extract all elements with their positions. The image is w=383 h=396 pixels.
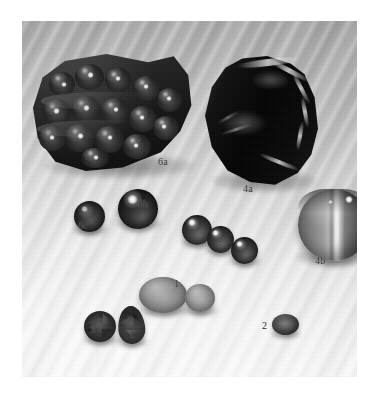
photo-grain-overlay: [22, 21, 357, 377]
photographic-plate: 6a 6b 6c 4a 4b 5 1 3 2: [22, 21, 357, 377]
